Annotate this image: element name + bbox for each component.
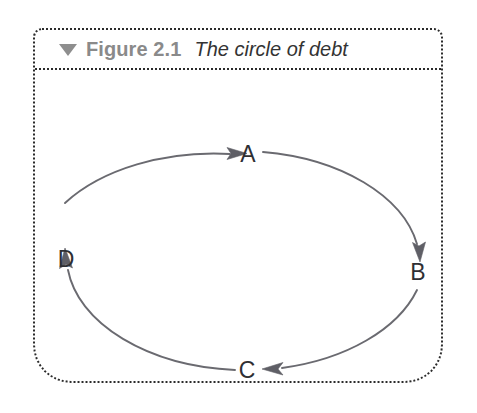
figure-number-label: Figure 2.1 xyxy=(86,38,181,61)
figure-title-label: The circle of debt xyxy=(194,38,347,61)
arrowhead-into-c xyxy=(262,363,283,376)
figure-caption-bar: Figure 2.1 The circle of debt xyxy=(35,30,441,70)
edge-a-to-b xyxy=(263,152,417,244)
edge-c-to-d xyxy=(68,270,235,370)
figure-diagram-area: A B C D xyxy=(35,70,441,381)
edge-d-to-a xyxy=(65,154,230,203)
node-label-b: B xyxy=(410,259,425,285)
node-label-c: C xyxy=(239,357,256,383)
figure-panel: Figure 2.1 The circle of debt A B C xyxy=(33,28,443,383)
node-label-d: D xyxy=(58,246,75,272)
edge-b-to-c xyxy=(282,290,417,368)
circle-of-debt-diagram: A B C D xyxy=(35,70,445,385)
node-label-a: A xyxy=(240,141,256,167)
triangle-down-icon[interactable] xyxy=(59,44,77,56)
